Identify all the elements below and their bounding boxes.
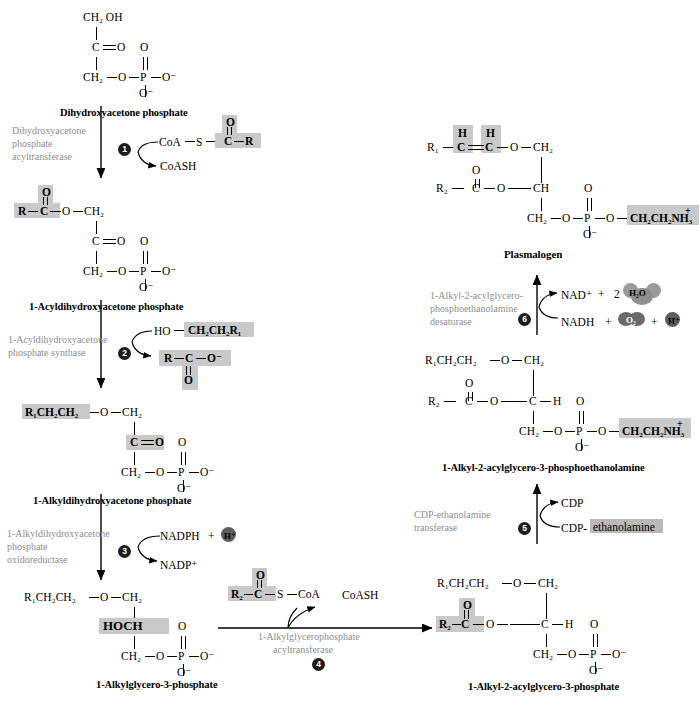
bond [579,411,580,424]
bond [181,636,182,649]
atom-o-minus-bottom: O⁻ [139,88,153,100]
atom-alkyl-chain: R₁CH₂CH₂ [24,592,76,604]
atom-r1: R₁ [427,142,439,154]
atom-ch2: CH₂ [122,407,142,419]
atom-h-right: H [486,128,495,140]
bond [497,147,508,148]
atom-o-link: O [562,213,570,225]
bond [452,624,461,625]
atom-o-phosphoryl: O [140,236,148,248]
enzyme-label-2-line2: phosphate synthase [8,347,86,360]
bond [28,211,38,212]
bond [141,440,154,441]
label-dihydroxyacetone-phosphate: Dihydroxyacetone phosphate [60,107,188,118]
bond [103,45,116,46]
atom-c: C [130,437,138,449]
bond [601,654,611,655]
bond [43,197,44,205]
atom-o-phosphoryl: O [140,42,148,54]
atom-o-right: O [598,426,606,438]
bond [107,271,117,272]
atom-o-link: O [554,426,562,438]
bond [185,636,186,649]
oxygen-label: O₂ [626,315,636,325]
bond [129,77,139,78]
atom-o-minus-right: O⁻ [162,72,176,84]
bond [111,597,121,598]
atom-ch2: CH₂ [83,72,103,84]
enzyme-label-4-line2: acyltransferase [273,644,333,657]
atom-o-ester: O [490,396,498,408]
atom-o-right: O [606,213,614,225]
bond [129,271,139,272]
atom-r2: R₂ [428,396,440,408]
atom-o-link: O [118,266,126,278]
atom-headgroup-charge: + [677,418,683,430]
bond [473,624,484,625]
bond [533,411,534,424]
label-1-alkyldihydroxyacetone-phosphate: 1-Alkyldihydroxyacetone phosphate [33,495,191,506]
atom-headgroup: CH₂CH₂NH₃ [630,213,692,225]
atom-r: R [18,206,26,218]
atom-coa: CoA [298,589,320,601]
bond [174,358,184,359]
bond [490,360,500,361]
bond [96,221,97,234]
plus-sign: + [208,530,215,542]
bond [244,594,253,595]
bond [543,431,553,432]
bond [595,218,605,219]
atom-c-vinyl-right: C [485,142,493,154]
atom-r2: R₂ [436,183,448,195]
bond [573,218,583,219]
atom-o-ether: O [100,592,108,604]
bond [174,330,184,331]
atom-o-acyl: O [472,165,480,177]
bond [134,452,135,465]
plus-sign-top: + [598,288,605,300]
bond [145,656,155,657]
atom-ch2: CH₂ [122,592,142,604]
enzyme-label-1-line1: Dihydroxyacetone [12,125,86,138]
bond [90,412,99,413]
bond [47,197,48,205]
atom-headgroup: CH₂CH₂NH₃ [622,426,684,438]
atom-o-minus-bottom: O⁻ [177,483,191,495]
bond [231,127,232,135]
product-coash: CoASH [160,160,196,172]
atom-c: C [541,619,549,631]
label-1-acyldihydroxyacetone-phosphate: 1-Acyldihydroxyacetone phosphate [29,301,183,312]
bond [134,636,135,649]
bond [189,472,199,473]
enzyme-label-2-line1: 1-Acyldihydroxyacetone [8,334,107,347]
atom-headgroup-charge: + [685,205,691,217]
atom-ch2-b: CH₂ [121,467,141,479]
atom-h: H [553,396,561,408]
atom-alkyl-chain: R₁CH₂CH₂ [25,407,78,419]
atom-o-minus-bottom: O⁻ [575,442,589,454]
label-1-alkylglycero-3-phosphate: 1-Alkylglycero-3-phosphate [96,679,217,690]
atom-ch2-b: CH₂ [533,649,553,661]
bond [552,624,563,625]
bond [103,239,116,240]
atom-ch2: CH₂ [84,206,104,218]
atom-o-phosphoryl: O [584,183,592,195]
plus-sign-1: + [605,316,612,328]
bond [546,634,547,647]
bond [189,656,199,657]
atom-ch2: CH₂ [524,355,544,367]
atom-o-minus: O⁻ [207,353,222,365]
cofactor-coa: CoA [159,136,181,148]
atom-o-ester: O [62,206,70,218]
bond [147,251,148,264]
bond [196,358,206,359]
bond [111,412,121,413]
bond [143,57,144,70]
atom-p: P [178,467,184,479]
atom-o-link: O [156,467,164,479]
atom-o-ether: O [510,142,518,154]
atom-c-acyl: C [40,206,48,218]
bond [145,472,155,473]
atom-ch2-b: CH₂ [519,426,539,438]
